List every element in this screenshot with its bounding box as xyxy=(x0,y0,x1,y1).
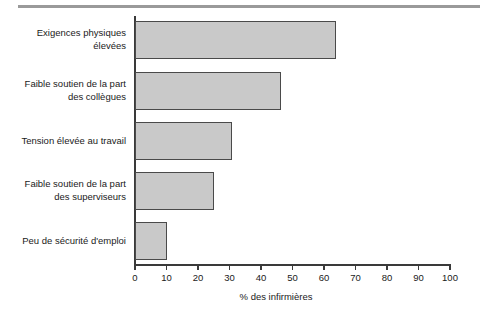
category-label-1-line1: Exigences physiques xyxy=(0,27,126,40)
category-label-1: Exigences physiques élevées xyxy=(0,27,126,52)
x-tick-20 xyxy=(197,265,199,270)
bar-tension-elevee-au-travail[interactable] xyxy=(135,122,232,160)
x-tick-label-20: 20 xyxy=(183,272,213,284)
x-tick-0 xyxy=(134,265,136,270)
category-label-3: Tension élevée au travail xyxy=(0,135,126,148)
x-tick-label-100: 100 xyxy=(435,272,465,284)
x-tick-label-10: 10 xyxy=(152,272,182,284)
category-label-5: Peu de sécurité d'emploi xyxy=(0,235,126,248)
x-tick-label-90: 90 xyxy=(404,272,434,284)
category-label-3-line1: Tension élevée au travail xyxy=(0,135,126,148)
category-label-5-line1: Peu de sécurité d'emploi xyxy=(0,235,126,248)
x-tick-90 xyxy=(418,265,420,270)
bar-exigences-physiques-elevees[interactable] xyxy=(135,21,336,59)
x-tick-10 xyxy=(166,265,168,270)
x-tick-label-70: 70 xyxy=(341,272,371,284)
category-label-1-line2: élevées xyxy=(0,40,126,53)
bar-peu-de-securite-emploi[interactable] xyxy=(135,222,167,260)
chart-figure: 0 10 20 30 40 50 60 70 80 90 100 Exigenc… xyxy=(0,0,500,321)
bar-faible-soutien-superviseurs[interactable] xyxy=(135,172,214,210)
x-tick-30 xyxy=(229,265,231,270)
x-tick-100 xyxy=(449,265,451,270)
x-tick-60 xyxy=(323,265,325,270)
x-tick-label-60: 60 xyxy=(309,272,339,284)
x-tick-50 xyxy=(292,265,294,270)
x-tick-40 xyxy=(260,265,262,270)
x-tick-label-40: 40 xyxy=(246,272,276,284)
category-label-2: Faible soutien de la part des collègues xyxy=(0,78,126,103)
x-tick-label-0: 0 xyxy=(120,272,150,284)
category-label-2-line2: des collègues xyxy=(0,91,126,104)
x-tick-80 xyxy=(386,265,388,270)
category-label-2-line1: Faible soutien de la part xyxy=(0,78,126,91)
x-axis-title: % des infirmières xyxy=(0,291,500,302)
x-tick-70 xyxy=(355,265,357,270)
x-tick-label-30: 30 xyxy=(215,272,245,284)
x-tick-label-80: 80 xyxy=(372,272,402,284)
x-tick-label-50: 50 xyxy=(278,272,308,284)
category-label-4-line1: Faible soutien de la part xyxy=(0,178,126,191)
category-label-4: Faible soutien de la part des superviseu… xyxy=(0,178,126,203)
bar-faible-soutien-collegues[interactable] xyxy=(135,72,281,110)
category-label-4-line2: des superviseurs xyxy=(0,191,126,204)
bar-chart-plot-area: 0 10 20 30 40 50 60 70 80 90 100 Exigenc… xyxy=(0,0,500,321)
